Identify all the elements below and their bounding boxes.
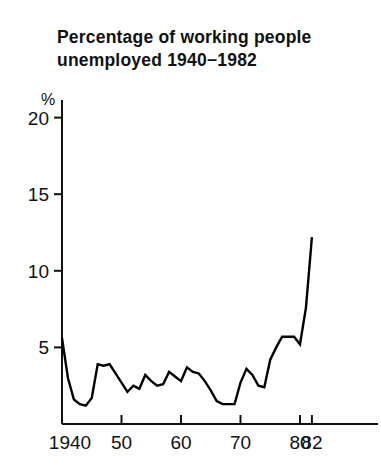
- x-tick-label: 60: [170, 432, 191, 453]
- y-axis-tick-labels: 5101520: [28, 108, 49, 359]
- x-tick-label: 70: [230, 432, 251, 453]
- y-axis-ticks: [54, 118, 62, 348]
- y-tick-label: 15: [28, 184, 49, 205]
- x-tick-label: 50: [111, 432, 132, 453]
- y-tick-label: 5: [38, 337, 49, 358]
- data-series-line: [62, 237, 312, 406]
- axes-group: [62, 100, 378, 424]
- x-tick-label: 82: [301, 432, 322, 453]
- y-tick-label: 20: [28, 108, 49, 129]
- x-axis-tick-labels: 19405060708082: [49, 432, 323, 453]
- y-axis-unit-label: %: [41, 91, 55, 108]
- y-tick-label: 10: [28, 261, 49, 282]
- x-axis-ticks: [62, 415, 312, 424]
- x-tick-label: 1940: [49, 432, 91, 453]
- chart-page: Percentage of working people unemployed …: [0, 0, 381, 474]
- unemployment-line-chart: % 5101520 19405060708082: [0, 0, 381, 474]
